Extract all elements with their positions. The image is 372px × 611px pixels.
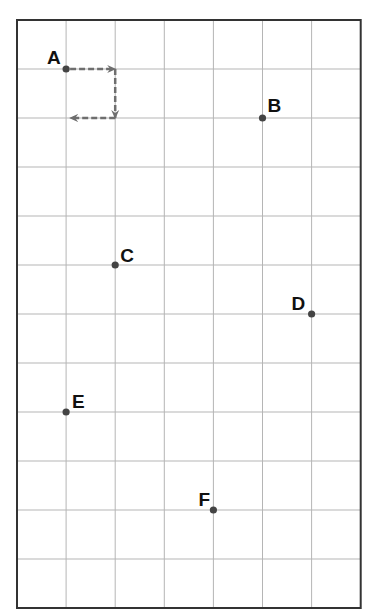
point-dot <box>63 408 70 415</box>
point-label: F <box>198 489 210 510</box>
point-label: D <box>292 293 306 314</box>
point-dot <box>210 506 217 513</box>
point-dot <box>259 114 266 121</box>
point-label: C <box>120 245 134 266</box>
point-dot <box>112 261 119 268</box>
point-f: F <box>198 489 217 514</box>
point-label: A <box>47 47 61 68</box>
point-dot <box>308 310 315 317</box>
point-label: E <box>72 391 85 412</box>
point-dot <box>63 65 70 72</box>
point-label: B <box>268 95 282 116</box>
coordinate-grid: ABCDEF <box>0 0 372 611</box>
arrow-path <box>70 69 115 118</box>
